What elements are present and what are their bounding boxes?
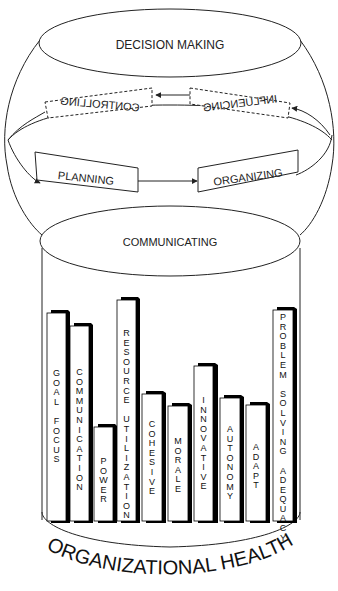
bar-label-autonomy: AUTONOMY bbox=[220, 425, 240, 502]
bar-label-letter: N bbox=[76, 483, 83, 493]
bar-label-goal-focus: GOAL FOCUS bbox=[47, 369, 66, 465]
bar-label-letter: E bbox=[200, 482, 206, 492]
bar-label-resource-utilization: RESOURCE UTILIZATION bbox=[117, 329, 136, 521]
bar-label-letter: N bbox=[123, 511, 130, 521]
bar-label-power: POWER bbox=[94, 457, 113, 505]
bar-label-letter: T bbox=[253, 481, 259, 491]
planning-box: PLANNING bbox=[35, 152, 138, 192]
bar-label-problem-solving-adequacy: PROBLEM SOLVING ADEQUACY bbox=[273, 313, 293, 543]
communicating-label: COMMUNICATING bbox=[123, 236, 218, 248]
bar-label-innovative: INNOVATIVE bbox=[194, 396, 213, 492]
bar-label-letter: E bbox=[149, 487, 155, 497]
controlling-box: CONTROLLING bbox=[45, 88, 152, 118]
bar-label-adapt: ADAPT bbox=[246, 443, 266, 491]
influencing-box: INFLUENCING bbox=[190, 88, 290, 118]
bar-label-letter: E bbox=[175, 485, 181, 495]
bar-label-letter: Y bbox=[227, 492, 233, 502]
bar-label-letter: R bbox=[100, 495, 107, 505]
bar-label-communication: COMMUNICATION bbox=[70, 368, 89, 493]
bar-label-morale: MORALE bbox=[168, 437, 188, 495]
bar-label-letter: S bbox=[53, 455, 59, 465]
organizing-box: ORGANIZING bbox=[198, 150, 298, 192]
bar-label-cohesive: COHESIVE bbox=[142, 420, 162, 497]
decision-making-label: DECISION MAKING bbox=[116, 38, 225, 52]
bar-label-letter: Y bbox=[280, 534, 286, 544]
